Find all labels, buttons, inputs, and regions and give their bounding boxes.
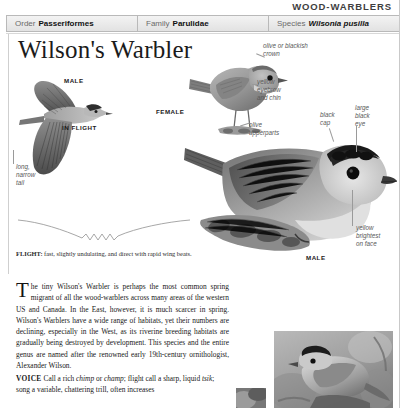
voice-call-chimp: chimp — [76, 374, 94, 383]
taxonomy-value-family: Parulidae — [173, 19, 209, 28]
taxonomy-cell-order: Order Passeriformes — [7, 16, 138, 31]
annotation-long-narrow-tail: long, narrow tail — [16, 163, 35, 187]
species-photograph — [274, 331, 393, 408]
page-left-rule — [8, 34, 9, 274]
voice-heading: VOICE — [16, 374, 42, 383]
voice-text-2: or — [94, 374, 104, 383]
taxonomy-cell-family: Family Parulidae — [138, 16, 269, 31]
taxonomy-key-species: Species — [277, 19, 305, 28]
flight-path-diagram — [16, 218, 192, 246]
adjacent-photograph-edge — [236, 388, 266, 408]
taxonomy-cell-species: Species Wilsonia pusilla — [269, 16, 399, 31]
taxonomy-key-order: Order — [15, 19, 35, 28]
flight-note-label: FLIGHT: — [16, 250, 43, 257]
voice-call-champ: champ — [104, 374, 124, 383]
leader-line-large-black-eye — [356, 126, 357, 152]
taxonomy-key-family: Family — [146, 19, 170, 28]
label-female: FEMALE — [156, 108, 184, 115]
running-head: WOOD-WARBLERS — [292, 1, 392, 12]
label-male-in-flight-male: MALE — [64, 77, 84, 84]
description-paragraph: he tiny Wilson's Warbler is perhaps the … — [16, 282, 229, 370]
annotation-olive-blackish-crown: olive or blackish crown — [263, 42, 308, 58]
taxonomy-bar: Order Passeriformes Family Parulidae Spe… — [6, 15, 400, 32]
voice-call-tsik: tsik — [202, 374, 212, 383]
annotation-yellow-brightest-face: yellow brightest on face — [356, 224, 380, 248]
annotation-yellow-eyebrow-chin: yellow eyebrow and chin — [257, 78, 281, 102]
drop-cap: T — [16, 281, 31, 298]
label-in-flight: IN FLIGHT — [62, 124, 97, 131]
label-male-perched: MALE — [306, 254, 326, 261]
leader-line-yellow-face — [352, 190, 353, 226]
annotation-large-black-eye: large black eye — [355, 104, 370, 128]
taxonomy-value-order: Passeriformes — [38, 19, 93, 28]
taxonomy-value-species: Wilsonia pusilla — [308, 19, 368, 28]
annotation-black-cap: black cap — [320, 111, 335, 127]
flight-note-text: fast, slightly undulating, and direct wi… — [43, 250, 192, 257]
taxonomy-bar-underline — [6, 33, 400, 34]
leader-line-tail — [13, 150, 14, 164]
page-edge-rule — [399, 0, 400, 408]
species-description: The tiny Wilson's Warbler is perhaps the… — [16, 281, 229, 371]
voice-section: VOICE Call a rich chimp or champ; flight… — [16, 373, 216, 395]
page-title: Wilson's Warbler — [18, 36, 192, 64]
flight-note: FLIGHT: fast, slightly undulating, and d… — [16, 249, 202, 258]
field-guide-page: WOOD-WARBLERS Order Passeriformes Family… — [0, 0, 406, 408]
voice-text-3: ; flight call a sharp, liquid — [124, 374, 202, 383]
leader-line-eyebrow — [252, 84, 258, 85]
voice-text-1: Call a rich — [43, 374, 76, 383]
